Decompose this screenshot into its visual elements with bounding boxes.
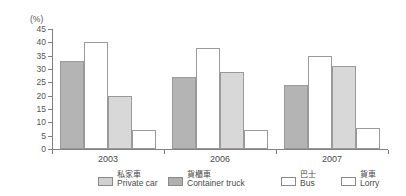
- y-axis-tick: [48, 82, 53, 83]
- bar-container-truck-2006[interactable]: [196, 48, 220, 149]
- legend-item-container-truck[interactable]: 貨櫃車Container truck: [168, 170, 245, 188]
- y-axis-tick-label: 10: [2, 118, 46, 127]
- y-axis-tick: [48, 109, 53, 110]
- legend-swatch-icon: [98, 177, 113, 186]
- bar-container-truck-2003[interactable]: [84, 42, 108, 149]
- bar-group: [60, 29, 156, 149]
- bar-bus-2003[interactable]: [108, 96, 132, 149]
- y-axis-tick-label: 15: [2, 105, 46, 114]
- y-axis-tick-label: 0: [2, 145, 46, 154]
- legend-label-en: Lorry: [360, 179, 379, 188]
- bar-container-truck-2007[interactable]: [308, 56, 332, 149]
- legend-item-lorry[interactable]: 貨車Lorry: [341, 170, 379, 188]
- y-axis-tick-label: 40: [2, 38, 46, 47]
- y-axis-tick: [48, 122, 53, 123]
- bar-bus-2006[interactable]: [220, 72, 244, 149]
- y-axis-tick-label: 20: [2, 92, 46, 101]
- y-axis-tick: [48, 96, 53, 97]
- y-axis-tick-label: 25: [2, 78, 46, 87]
- x-axis-label-2007: 2007: [302, 154, 362, 164]
- bar-bus-2007[interactable]: [332, 66, 356, 149]
- legend-swatch-icon: [341, 177, 356, 186]
- legend-label-en: Bus: [300, 179, 316, 188]
- x-axis-tick: [52, 150, 53, 154]
- y-axis-tick-label: 30: [2, 65, 46, 74]
- x-axis-label-2006: 2006: [190, 154, 250, 164]
- bar-private-car-2003[interactable]: [60, 61, 84, 149]
- bar-lorry-2003[interactable]: [132, 130, 156, 149]
- bar-lorry-2006[interactable]: [244, 130, 268, 149]
- y-axis-labels: 051015202530354045: [0, 0, 46, 196]
- legend-swatch-icon: [281, 177, 296, 186]
- y-axis-tick-label: 45: [2, 25, 46, 34]
- bar-chart: (%) 051015202530354045 私家車Private car貨櫃車…: [0, 0, 406, 196]
- x-axis-tick: [276, 150, 277, 154]
- legend-item-private-car[interactable]: 私家車Private car: [98, 170, 158, 188]
- y-axis-tick: [48, 69, 53, 70]
- legend-label-en: Container truck: [187, 179, 245, 188]
- bar-group: [172, 29, 268, 149]
- y-axis-tick: [48, 136, 53, 137]
- legend-item-bus[interactable]: 巴士Bus: [281, 170, 316, 188]
- bar-private-car-2007[interactable]: [284, 85, 308, 149]
- x-axis-line: [52, 149, 388, 150]
- chart-legend: 私家車Private car貨櫃車Container truck巴士Bus貨車L…: [98, 170, 398, 194]
- bar-lorry-2007[interactable]: [356, 128, 380, 149]
- y-axis-tick: [48, 56, 53, 57]
- legend-label-en: Private car: [117, 179, 158, 188]
- y-axis-tick-label: 35: [2, 52, 46, 61]
- y-axis-tick: [48, 42, 53, 43]
- x-axis-label-2003: 2003: [78, 154, 138, 164]
- y-axis-tick-label: 5: [2, 132, 46, 141]
- x-axis-tick: [164, 150, 165, 154]
- x-axis-tick: [388, 150, 389, 154]
- legend-swatch-icon: [168, 177, 183, 186]
- bar-private-car-2006[interactable]: [172, 77, 196, 149]
- y-axis-tick: [48, 29, 53, 30]
- bar-group: [284, 29, 380, 149]
